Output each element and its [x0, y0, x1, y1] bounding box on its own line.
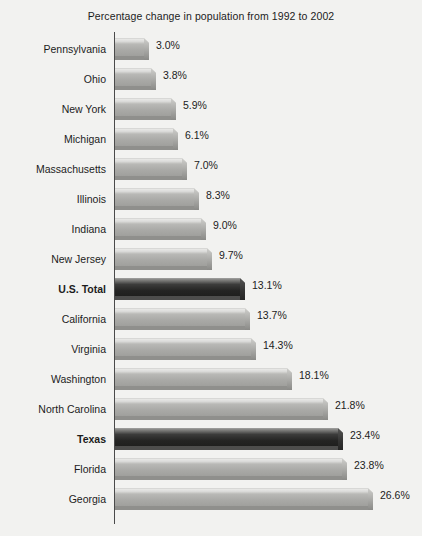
bar-end-cap	[182, 158, 187, 180]
bar-face	[115, 218, 201, 237]
bar-row: New York5.9%	[0, 94, 422, 124]
bar	[115, 188, 194, 210]
bar-face	[115, 488, 368, 507]
bar-base-shadow	[115, 206, 194, 210]
bar-face	[115, 158, 182, 177]
bar-row-label: Indiana	[0, 214, 106, 244]
bar-face	[115, 128, 173, 147]
bar-base-shadow	[115, 146, 173, 150]
bar	[115, 128, 173, 150]
bar-end-cap	[171, 98, 176, 120]
bar-end-cap	[201, 218, 206, 240]
bar-end-cap	[207, 248, 212, 270]
bar-value-label: 3.8%	[163, 64, 187, 86]
bar-face	[115, 98, 171, 117]
bar-value-label: 9.7%	[219, 244, 243, 266]
bar-face	[115, 428, 338, 447]
bar-base-shadow	[115, 266, 207, 270]
bar-row-label: North Carolina	[0, 394, 106, 424]
bar-row: Illinois8.3%	[0, 184, 422, 214]
bar-value-label: 14.3%	[263, 334, 293, 356]
bar	[115, 308, 245, 330]
bar-face	[115, 188, 194, 207]
bar-row-label: Georgia	[0, 484, 106, 514]
bar	[115, 98, 171, 120]
bar-row: U.S. Total13.1%	[0, 274, 422, 304]
bar-end-cap	[151, 68, 156, 90]
bar-row: New Jersey9.7%	[0, 244, 422, 274]
bar-row-label: Illinois	[0, 184, 106, 214]
bar-end-cap	[194, 188, 199, 210]
bar-base-shadow	[115, 296, 240, 300]
bar	[115, 278, 240, 300]
bar-value-label: 23.8%	[354, 454, 384, 476]
bar-row-label: California	[0, 304, 106, 334]
bar	[115, 38, 144, 60]
bar	[115, 368, 287, 390]
bar-row: North Carolina21.8%	[0, 394, 422, 424]
bar-face	[115, 248, 207, 267]
bar-face	[115, 38, 144, 57]
bar-row: Virginia14.3%	[0, 334, 422, 364]
bar-end-cap	[287, 368, 292, 390]
bar-row: Pennsylvania3.0%	[0, 34, 422, 64]
bar-row-label: Michigan	[0, 124, 106, 154]
bar-value-label: 3.0%	[156, 34, 180, 56]
bar-row-label: New York	[0, 94, 106, 124]
bar	[115, 68, 151, 90]
bar	[115, 458, 342, 480]
bar-end-cap	[173, 128, 178, 150]
bar	[115, 398, 323, 420]
bar-row: California13.7%	[0, 304, 422, 334]
bar	[115, 248, 207, 270]
plot-area: Pennsylvania3.0%Ohio3.8%New York5.9%Mich…	[0, 32, 422, 532]
bar-row-label: Pennsylvania	[0, 34, 106, 64]
bar-value-label: 18.1%	[299, 364, 329, 386]
bar-row-label: Washington	[0, 364, 106, 394]
bar-base-shadow	[115, 236, 201, 240]
bar-row: Florida23.8%	[0, 454, 422, 484]
bar-end-cap	[368, 488, 373, 510]
bar-value-label: 13.1%	[252, 274, 282, 296]
bar-row-label: Massachusetts	[0, 154, 106, 184]
bar-row: Washington18.1%	[0, 364, 422, 394]
bar	[115, 488, 368, 510]
bar-face	[115, 398, 323, 417]
bar-base-shadow	[115, 446, 338, 450]
bar	[115, 338, 251, 360]
bar-value-label: 9.0%	[213, 214, 237, 236]
bar-row: Texas23.4%	[0, 424, 422, 454]
value-axis-line	[114, 32, 115, 524]
bar-row: Michigan6.1%	[0, 124, 422, 154]
bar-base-shadow	[115, 386, 287, 390]
bar-face	[115, 68, 151, 87]
bar-value-label: 21.8%	[335, 394, 365, 416]
bar-value-label: 23.4%	[350, 424, 380, 446]
bar-base-shadow	[115, 86, 151, 90]
bar-base-shadow	[115, 356, 251, 360]
bar-face	[115, 458, 342, 477]
bar-row-label: Texas	[0, 424, 106, 454]
bar-row-label: Virginia	[0, 334, 106, 364]
bar-base-shadow	[115, 56, 144, 60]
bar-base-shadow	[115, 416, 323, 420]
bar-value-label: 8.3%	[206, 184, 230, 206]
bar-end-cap	[144, 38, 149, 60]
bar-row: Indiana9.0%	[0, 214, 422, 244]
bar-row: Georgia26.6%	[0, 484, 422, 514]
bar-value-label: 6.1%	[185, 124, 209, 146]
bar-row-label: Ohio	[0, 64, 106, 94]
bar-row: Massachusetts7.0%	[0, 154, 422, 184]
bar-end-cap	[240, 278, 245, 300]
bar-base-shadow	[115, 476, 342, 480]
population-change-bar-chart: Percentage change in population from 199…	[0, 0, 422, 536]
bar-face	[115, 368, 287, 387]
bar-end-cap	[342, 458, 347, 480]
bar-end-cap	[251, 338, 256, 360]
bar-value-label: 26.6%	[380, 484, 410, 506]
bar	[115, 428, 338, 450]
bar-end-cap	[245, 308, 250, 330]
bar-base-shadow	[115, 116, 171, 120]
bar-base-shadow	[115, 326, 245, 330]
bar-row-label: New Jersey	[0, 244, 106, 274]
